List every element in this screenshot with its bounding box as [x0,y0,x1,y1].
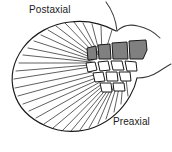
distal-radial [111,61,124,70]
fin-diagram-figure: Postaxial Preaxial [0,0,172,152]
distal-radial [106,72,118,81]
distal-radial [86,62,97,72]
body-wall-line-upper [117,25,160,38]
distal-radial [100,83,112,92]
proximal-radial [112,42,128,59]
distal-radial [98,61,110,71]
proximal-radial [98,44,111,59]
distal-radial [125,61,137,71]
label-postaxial: Postaxial [29,4,70,15]
distal-radial [119,72,131,81]
fin-diagram-svg [0,0,172,152]
body-wall-line-lower [137,64,171,78]
proximal-radial [129,40,147,59]
distal-radial [113,83,125,91]
label-preaxial: Preaxial [113,116,150,127]
distal-radial [93,72,105,82]
proximal-radial [87,46,97,60]
